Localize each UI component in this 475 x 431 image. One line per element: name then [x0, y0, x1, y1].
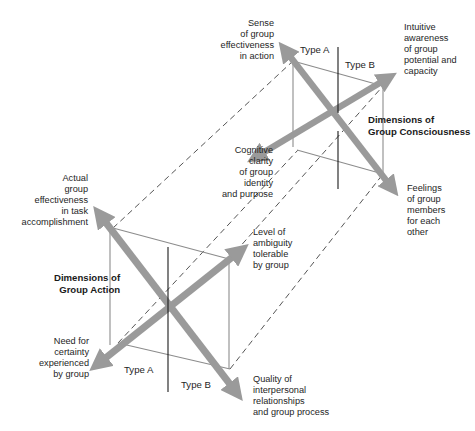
upper-label-sense-of-effectiveness: Sense of group effectiveness in action: [200, 18, 274, 62]
upper-figure-title: Dimensions of Group Consciousness: [368, 114, 470, 137]
lower-figure-title: Dimensions of Group Action: [54, 272, 120, 295]
upper-type-a-label: Type A: [300, 44, 329, 55]
lower-label-ambiguity-tolerable: Level of ambiguity tolerable by group: [253, 227, 333, 271]
lower-type-a-label: Type A: [124, 364, 153, 375]
upper-label-intuitive-awareness: Intuitive awareness of group potential a…: [404, 22, 474, 77]
lower-label-actual-effectiveness: Actual group effectiveness in task accom…: [4, 173, 88, 228]
lower-type-b-label: Type B: [181, 379, 211, 390]
dashed-connector-bottom-right: [230, 174, 383, 369]
upper-type-b-label: Type B: [345, 59, 375, 70]
upper-label-cognitive-clarity: Cognitive clarity of group identity and …: [190, 145, 273, 200]
lower-label-need-for-certainty: Need for certainty experienced by group: [10, 336, 89, 380]
lower-arrow-sw-ne: [98, 251, 240, 364]
lower-figure-arrows: [98, 215, 240, 392]
upper-label-feelings-of-members: Feelings of group members for each other: [407, 183, 467, 238]
lower-label-quality-of-relationships: Quality of interpersonal relationships a…: [253, 374, 373, 418]
